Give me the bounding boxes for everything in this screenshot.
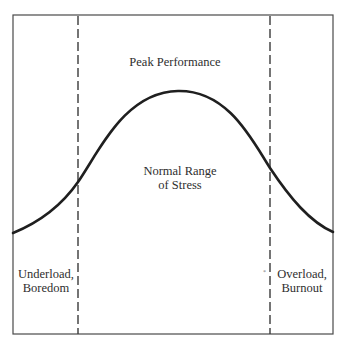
overload-label: Overload, Burnout	[270, 267, 334, 295]
normal-range-label: Normal Range of Stress	[80, 164, 280, 192]
stray-mark: *	[263, 269, 266, 275]
peak-performance-label: Peak Performance	[80, 55, 270, 69]
performance-curve	[13, 91, 333, 233]
underload-label: Underload, Boredom	[14, 267, 78, 295]
